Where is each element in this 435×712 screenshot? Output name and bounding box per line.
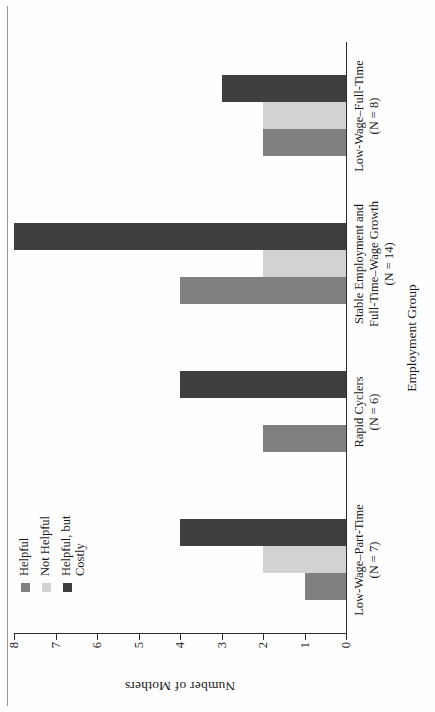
category-label-line: (N = 7) xyxy=(367,486,382,634)
bar xyxy=(263,251,346,278)
value-tick xyxy=(180,634,181,640)
category-label-line: Rapid Cyclers xyxy=(352,338,367,486)
value-tick-label: 3 xyxy=(214,642,229,648)
category-label-line: Stable Employment and xyxy=(352,190,367,338)
bar xyxy=(180,278,346,305)
legend-label: Not Helpful xyxy=(39,516,53,576)
bar xyxy=(14,224,346,251)
value-tick xyxy=(263,634,264,640)
legend-swatch-icon xyxy=(42,583,51,592)
bar xyxy=(222,76,347,103)
bar xyxy=(180,520,346,547)
legend-swatch-icon xyxy=(63,583,72,592)
bar-group xyxy=(14,42,346,190)
category-label: Low-Wage–Full-Time(N = 8) xyxy=(352,42,382,190)
legend-label: Helpful, but Costly xyxy=(60,516,88,576)
category-label: Low-Wage–Part-Time(N = 7) xyxy=(352,486,382,634)
value-tick-label: 8 xyxy=(7,642,22,648)
legend-item: Helpful, but Costly xyxy=(60,516,81,592)
category-axis-title: Employment Group xyxy=(404,284,420,392)
value-tick xyxy=(222,634,223,640)
value-tick xyxy=(305,634,306,640)
value-tick-label: 4 xyxy=(173,642,188,648)
category-label: Rapid Cyclers(N = 6) xyxy=(352,338,382,486)
category-label-line: Low-Wage–Full-Time xyxy=(352,42,367,190)
bar xyxy=(263,547,346,574)
legend-label: Helpful xyxy=(18,538,32,576)
legend-swatch-icon xyxy=(21,583,30,592)
value-tick xyxy=(346,634,347,640)
bar-chart-figure: 012345678 Number of Mothers Low-Wage–Par… xyxy=(0,0,435,712)
value-tick xyxy=(14,634,15,640)
category-label: Stable Employment andFull-Time–Wage Grow… xyxy=(352,190,396,338)
value-tick xyxy=(97,634,98,640)
value-tick-label: 2 xyxy=(256,642,271,648)
legend: HelpfulNot HelpfulHelpful, but Costly xyxy=(18,516,81,592)
category-label-line: (N = 8) xyxy=(367,42,382,190)
value-tick-label: 7 xyxy=(48,642,63,648)
bar xyxy=(263,426,346,453)
value-tick-label: 5 xyxy=(131,642,146,648)
value-tick-label: 1 xyxy=(297,642,312,648)
category-axis-line xyxy=(346,42,347,634)
bar-group xyxy=(14,190,346,338)
category-label-line: (N = 6) xyxy=(367,338,382,486)
category-label-line: Low-Wage–Part-Time xyxy=(352,486,367,634)
category-label-line: (N = 14) xyxy=(382,190,397,338)
value-tick-label: 6 xyxy=(90,642,105,648)
legend-item: Helpful xyxy=(18,516,39,592)
value-tick xyxy=(56,634,57,640)
legend-item: Not Helpful xyxy=(39,516,60,592)
bar-group xyxy=(14,338,346,486)
figure-page: 012345678 Number of Mothers Low-Wage–Par… xyxy=(0,0,435,712)
value-axis-title: Number of Mothers xyxy=(125,678,236,694)
bar xyxy=(180,372,346,399)
value-tick-label: 0 xyxy=(339,642,354,648)
bar xyxy=(305,574,347,601)
bar xyxy=(263,103,346,130)
category-label-line: Full-Time–Wage Growth xyxy=(367,190,382,338)
bar xyxy=(263,130,346,157)
value-tick xyxy=(139,634,140,640)
